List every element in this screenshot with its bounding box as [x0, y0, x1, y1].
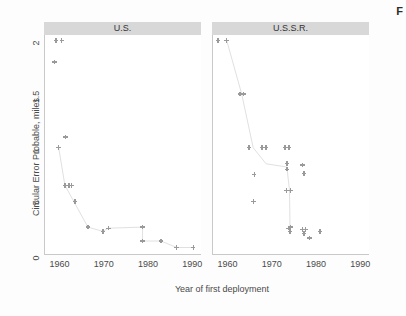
x-axis-tick-label: 1960: [39, 258, 79, 270]
y-axis-tick-labels: 0.511.52: [28, 38, 44, 258]
x-axis-tick-label: 1970: [84, 258, 124, 270]
facet-panel-ussr: U.S.S.R. 1960197019801990: [212, 22, 369, 255]
trend-line: [213, 35, 370, 255]
x-axis-tick-label: 1960: [207, 258, 247, 270]
x-axis-tick-label: 1990: [340, 258, 380, 270]
plot-area-ussr: [212, 35, 369, 255]
trend-line: [45, 35, 202, 255]
x-axis-tick-label: 1980: [128, 258, 168, 270]
facet-strip-label-us: U.S.: [44, 23, 201, 34]
plot-area-us: [44, 35, 201, 255]
facet-strip-ussr: U.S.S.R.: [212, 22, 369, 35]
y-axis-tick-label: 2: [31, 35, 41, 51]
x-axis-tick-label: 1990: [172, 258, 212, 270]
x-axis-tick-labels-ussr: 1960197019801990: [212, 258, 369, 272]
corner-glyph: F: [396, 6, 403, 17]
x-axis-tick-label: 1970: [252, 258, 292, 270]
x-axis-tick-labels-us: 1960197019801990: [44, 258, 201, 272]
facet-strip-label-ussr: U.S.S.R.: [212, 23, 369, 34]
figure-canvas: F Circular Error Probable, miles 0.511.5…: [0, 0, 406, 316]
y-axis-tick-label: .5: [31, 196, 41, 212]
facet-panel-us: U.S. 1960197019801990: [44, 22, 201, 255]
y-axis-tick-label: 1.5: [31, 89, 41, 105]
x-axis-title: Year of first deployment: [44, 284, 400, 294]
y-axis-tick-label: 1: [31, 143, 41, 159]
x-axis-tick-label: 1980: [296, 258, 336, 270]
facet-strip-us: U.S.: [44, 22, 201, 35]
